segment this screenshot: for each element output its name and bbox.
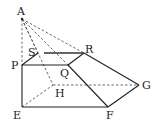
label-P: P <box>11 59 19 72</box>
label-G: G <box>142 79 151 92</box>
label-S: S <box>28 46 36 59</box>
edge-E-H <box>22 85 53 107</box>
edge-Q-F <box>68 65 108 107</box>
edge-F-G <box>108 85 139 107</box>
edge-A-H <box>22 19 53 85</box>
apex-point <box>21 18 23 20</box>
dashed-edges <box>22 19 139 107</box>
label-A: A <box>16 5 26 18</box>
solid-edges <box>22 53 139 107</box>
edge-G-R <box>84 53 139 85</box>
label-H: H <box>55 87 65 100</box>
label-F: F <box>106 109 114 122</box>
solid-diagram: A S R P Q H G E F <box>0 0 159 126</box>
vertex-labels: A S R P Q H G E F <box>11 5 151 122</box>
label-E: E <box>13 109 21 122</box>
label-R: R <box>85 43 94 56</box>
edge-Q-R <box>68 53 84 65</box>
label-Q: Q <box>60 67 69 80</box>
